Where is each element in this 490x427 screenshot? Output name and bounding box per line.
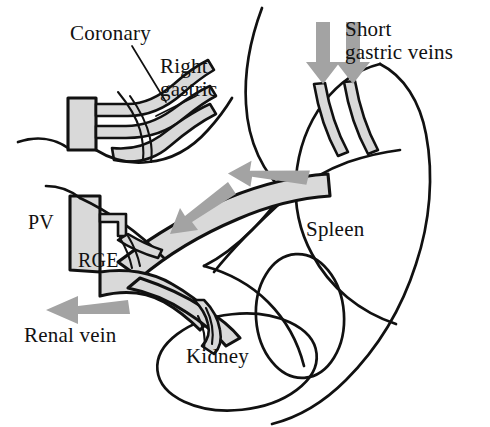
label-coronary: Coronary bbox=[70, 22, 151, 45]
label-pv: PV bbox=[28, 212, 54, 234]
short-gastric-arrow-1 bbox=[306, 22, 340, 84]
figure-canvas: .vfill{fill:#d9d9d9;stroke:#111111;strok… bbox=[0, 0, 490, 427]
renal-vein-arrow bbox=[46, 296, 130, 324]
portal-vein-trunk bbox=[68, 98, 96, 150]
label-rge: RGE bbox=[78, 250, 119, 272]
label-spleen: Spleen bbox=[306, 218, 364, 241]
label-short-gastric-veins: Short gastric veins bbox=[345, 18, 453, 63]
kidney-outline bbox=[152, 251, 348, 418]
label-right-gastric: Right gastric bbox=[160, 55, 217, 100]
label-kidney: Kidney bbox=[186, 345, 249, 368]
label-renal-vein: Renal vein bbox=[24, 324, 116, 347]
spleen-outline bbox=[272, 64, 430, 424]
